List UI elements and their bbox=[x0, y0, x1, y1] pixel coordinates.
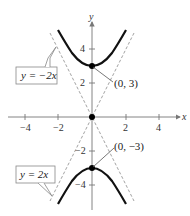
vertex-bottom-label: (0, −3) bbox=[114, 140, 144, 153]
x-tick-neg4: −4 bbox=[20, 122, 31, 133]
y-tick-neg4: −4 bbox=[75, 179, 86, 190]
asymptote-pos-callout: y = 2x bbox=[16, 166, 55, 196]
asymptote-pos-label: y = 2x bbox=[19, 168, 48, 180]
x-tick-neg2: −2 bbox=[53, 122, 64, 133]
x-axis-label: x bbox=[181, 111, 187, 122]
x-tick-4: 4 bbox=[156, 122, 161, 133]
hyperbola-graph: −4 −2 2 4 4 2 −2 −4 x y (0, 3) (0, −3) y… bbox=[0, 0, 190, 216]
x-tick-2: 2 bbox=[123, 122, 128, 133]
y-tick-4: 4 bbox=[80, 43, 85, 54]
asymptote-neg-label: y = −2x bbox=[20, 69, 57, 81]
y-axis-label: y bbox=[88, 11, 94, 22]
vertex-top-label: (0, 3) bbox=[114, 77, 138, 90]
asymptote-neg-callout: y = −2x bbox=[16, 47, 57, 84]
y-tick-neg2: −2 bbox=[75, 145, 86, 156]
origin-point bbox=[89, 114, 95, 120]
y-tick-2: 2 bbox=[80, 77, 85, 88]
